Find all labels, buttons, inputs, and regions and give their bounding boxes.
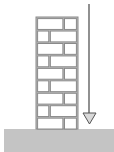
brick [38, 81, 49, 92]
brick [38, 93, 63, 104]
brick [64, 93, 76, 104]
brick [38, 43, 63, 54]
brick [38, 56, 49, 67]
brick [64, 19, 76, 30]
down-arrow-icon [83, 4, 96, 124]
brick [38, 31, 49, 42]
brick [50, 81, 76, 92]
brick [50, 31, 76, 42]
brick [64, 118, 76, 129]
brick-wall-diagram [0, 0, 114, 152]
brick [50, 56, 76, 67]
ground [4, 129, 114, 152]
brick-wall [36, 17, 78, 129]
brick [38, 118, 63, 129]
brick [50, 106, 76, 117]
brick [64, 43, 76, 54]
brick [38, 68, 63, 79]
brick [38, 106, 49, 117]
brick [64, 68, 76, 79]
brick [38, 19, 63, 30]
